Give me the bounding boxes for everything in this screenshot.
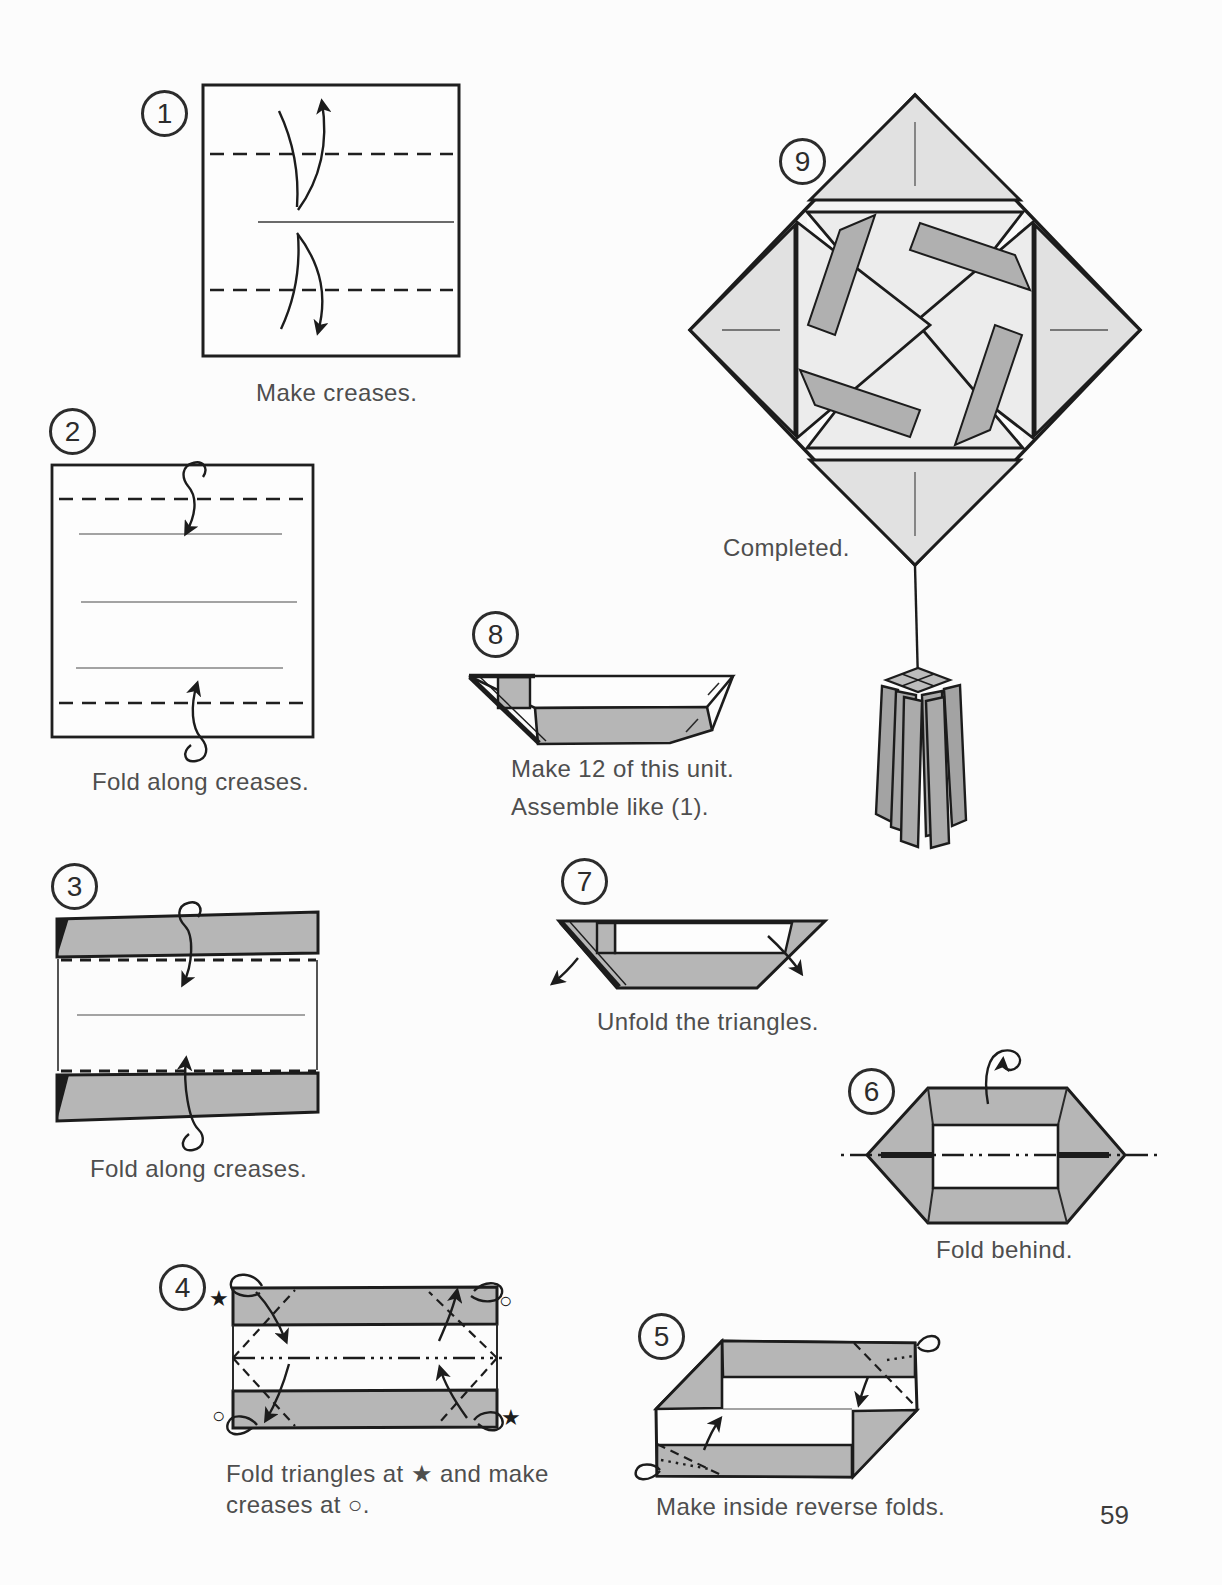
step-7-caption: Unfold the triangles. (597, 1008, 819, 1036)
step-1-badge: 1 (141, 90, 188, 137)
step-6-caption: Fold behind. (936, 1236, 1073, 1264)
step-2-caption: Fold along creases. (92, 768, 309, 796)
star-marker: ★ (501, 1405, 521, 1430)
circle-marker: ○ (212, 1403, 225, 1428)
step-7-diagram (545, 898, 845, 1026)
tassel (876, 668, 966, 848)
step-6-diagram (835, 1048, 1165, 1240)
step-1-number: 1 (157, 100, 173, 128)
paper-square (203, 85, 459, 356)
step-4-diagram: ★ ○ ○ ★ (216, 1278, 528, 1443)
folded-gray-band (657, 1445, 852, 1477)
step-5-diagram (630, 1325, 942, 1493)
step-3-diagram (54, 903, 322, 1141)
step-9-caption: Completed. (723, 534, 850, 562)
step-3-caption: Fold along creases. (90, 1155, 307, 1183)
unfold-arrow-icon (553, 958, 578, 983)
step-4-badge: 4 (159, 1264, 206, 1311)
step-5-caption: Make inside reverse folds. (656, 1493, 945, 1521)
inner-white-panel (615, 923, 792, 953)
step-2-diagram (50, 460, 316, 765)
gray-corner-triangle (853, 1410, 917, 1477)
tassel-strip (901, 697, 922, 847)
step-9-diagram (660, 90, 1170, 875)
step-2-number: 2 (65, 418, 81, 446)
origami-instruction-page: 1 Make creases. 2 Fold along creases. 3 (0, 0, 1222, 1585)
step-4-caption-line1: Fold triangles at ★ and make (226, 1458, 549, 1489)
folded-gray-band (57, 912, 318, 957)
tassel-strip (926, 697, 949, 848)
step-1-diagram (200, 83, 462, 361)
star-marker: ★ (209, 1286, 229, 1311)
loop-arrow-icon (917, 1336, 939, 1351)
step-1-caption: Make creases. (256, 379, 417, 407)
corner-pocket (498, 677, 530, 708)
inner-white-panel (933, 1125, 1058, 1188)
step-4-caption-line2: creases at ○. (226, 1489, 549, 1520)
paper-square (52, 465, 313, 737)
folded-gray-band (722, 1341, 915, 1377)
page-number: 59 (1100, 1500, 1129, 1531)
step-4-number: 4 (175, 1274, 191, 1302)
step-4-caption: Fold triangles at ★ and make creases at … (226, 1458, 549, 1520)
gray-corner-triangle (656, 1341, 722, 1409)
step-2-badge: 2 (49, 408, 96, 455)
step-3-number: 3 (67, 873, 83, 901)
step-7-number: 7 (577, 868, 593, 896)
step-8-number: 8 (488, 621, 504, 649)
hanging-string (915, 566, 918, 682)
circle-marker: ○ (499, 1288, 512, 1313)
step-8-badge: 8 (472, 611, 519, 658)
corner-pocket (597, 923, 615, 953)
